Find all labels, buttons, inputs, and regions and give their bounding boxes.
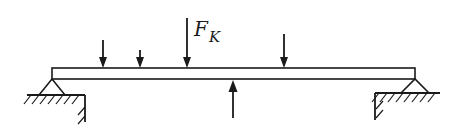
beam-body — [52, 68, 415, 79]
load-fk-arrow-icon — [183, 18, 191, 68]
arrow-head — [136, 57, 144, 68]
hatch-line — [412, 93, 419, 102]
support-triangle — [39, 79, 65, 95]
arrow-head — [280, 57, 288, 68]
hatch-line — [420, 93, 427, 102]
load-2-arrow-icon — [136, 50, 144, 68]
hatch-line — [72, 95, 79, 104]
hatch-line — [56, 95, 63, 104]
hatch-line — [48, 95, 55, 104]
hatch-line — [404, 93, 411, 102]
hatch-line — [388, 93, 395, 102]
right-pin-support — [372, 79, 440, 120]
hatch-line — [376, 101, 383, 109]
beam — [52, 68, 415, 79]
hatch-line — [64, 95, 71, 104]
reaction — [229, 80, 238, 118]
hatch-line — [78, 116, 85, 124]
hatch-line — [376, 110, 383, 118]
hatch-line — [32, 95, 39, 104]
arrow-head — [99, 57, 107, 68]
arrow-head — [183, 57, 191, 68]
hatch-line — [380, 93, 387, 102]
hatch-line — [396, 93, 403, 102]
left-pin-support — [24, 79, 85, 124]
load-4-arrow-icon — [280, 34, 288, 68]
load-1-arrow-icon — [99, 40, 107, 68]
hatch-line — [78, 107, 85, 115]
reaction-force-arrow-icon — [229, 80, 238, 118]
hatch-line — [40, 95, 47, 104]
hatch-line — [428, 93, 435, 102]
arrow-head — [229, 80, 238, 92]
support-triangle — [401, 79, 429, 93]
beam-diagram: FK — [0, 0, 454, 136]
force-label-fk: FK — [193, 17, 221, 46]
hatch-line — [24, 95, 31, 104]
